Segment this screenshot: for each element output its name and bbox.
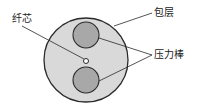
fiber-core [84, 59, 89, 64]
cladding-label: 包层 [154, 7, 174, 19]
stress-rod-top [73, 22, 99, 48]
cladding-leader-line [114, 13, 152, 26]
stress-rods-label: 压力棒 [154, 49, 184, 61]
core-label: 纤芯 [12, 13, 32, 25]
stress-rod-bottom [73, 67, 99, 93]
